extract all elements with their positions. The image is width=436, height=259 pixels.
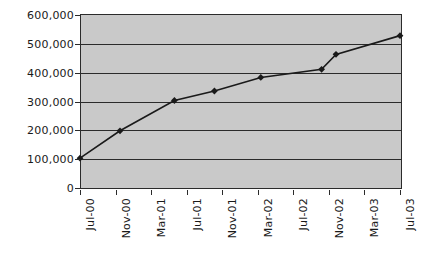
y-axis-tick-label: 500,000 [27, 37, 74, 50]
data-series [80, 14, 402, 189]
x-axis-tick-label: Jul-03 [404, 198, 417, 230]
x-axis-tick-label: Nov-01 [226, 198, 239, 238]
x-axis-tick-mark [364, 190, 365, 195]
y-axis-tick-label: 400,000 [27, 66, 74, 79]
y-axis-tick-mark [75, 44, 80, 45]
y-axis-tick-label: 200,000 [27, 124, 74, 137]
x-axis-tick-mark [151, 190, 152, 195]
series-line [80, 36, 400, 159]
x-axis-tick-label: Jul-00 [84, 198, 97, 230]
y-axis-tick-mark [75, 102, 80, 103]
data-point-marker [211, 88, 218, 95]
x-axis-tick-label: Mar-01 [155, 198, 168, 237]
x-axis-tick-label: Nov-02 [333, 198, 346, 238]
y-axis-tick-label: 600,000 [27, 9, 74, 22]
x-axis-tick-label: Jul-02 [297, 198, 310, 230]
x-axis-tick-label: Mar-02 [262, 198, 275, 237]
y-axis-tick-mark [75, 159, 80, 160]
y-axis-tick-mark [75, 130, 80, 131]
x-axis-tick-mark [187, 190, 188, 195]
data-point-marker [171, 97, 178, 104]
x-axis-tick-label: Jul-01 [191, 198, 204, 230]
x-axis-tick-mark [222, 190, 223, 195]
data-point-marker [257, 74, 264, 81]
x-axis: Jul-00Nov-00Mar-01Jul-01Nov-01Mar-02Jul-… [80, 190, 402, 259]
x-axis-tick-mark [116, 190, 117, 195]
x-axis-tick-label: Mar-03 [368, 198, 381, 237]
y-axis-tick-mark [75, 73, 80, 74]
data-point-marker [397, 32, 404, 39]
y-axis-tick-mark [75, 15, 80, 16]
x-axis-tick-mark [293, 190, 294, 195]
y-axis-tick-label: 100,000 [27, 153, 74, 166]
x-axis-tick-mark [400, 190, 401, 195]
y-axis: 600,000500,000400,000300,000200,000100,0… [0, 0, 74, 195]
x-axis-tick-label: Nov-00 [120, 198, 133, 238]
x-axis-tick-mark [329, 190, 330, 195]
y-axis-tick-mark [75, 188, 80, 189]
y-axis-tick-label: 0 [67, 182, 74, 195]
x-axis-tick-mark [258, 190, 259, 195]
line-chart: 600,000500,000400,000300,000200,000100,0… [0, 0, 436, 259]
y-axis-tick-label: 300,000 [27, 95, 74, 108]
x-axis-tick-mark [80, 190, 81, 195]
